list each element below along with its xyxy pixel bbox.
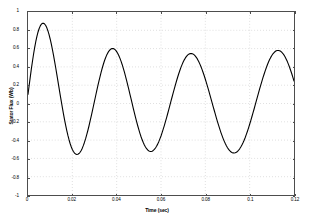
figure-canvas: -1-0.8-0.6-0.4-0.200.20.40.60.81 00.020.… <box>0 0 314 222</box>
y-tick-label: 0.8 <box>13 27 19 32</box>
x-tickmark <box>250 11 251 14</box>
y-tick-label: 1 <box>17 9 19 14</box>
y-tickmark <box>27 141 30 142</box>
y-tick-label: -0.6 <box>11 157 19 162</box>
x-tick-label: 0.12 <box>291 198 300 203</box>
y-tickmark <box>27 48 30 49</box>
x-axis-title: Time (sec) <box>0 207 314 213</box>
y-tickmark <box>293 122 296 123</box>
x-tickmark <box>116 11 117 14</box>
y-tickmark <box>27 178 30 179</box>
x-tickmark <box>27 194 28 197</box>
x-tick-label: 0.04 <box>112 198 121 203</box>
y-tickmark <box>27 159 30 160</box>
x-tickmark <box>72 11 73 14</box>
x-tickmark <box>250 194 251 197</box>
y-tickmark <box>293 159 296 160</box>
x-tickmark <box>27 11 28 14</box>
x-tickmark <box>161 194 162 197</box>
x-tick-label: 0.06 <box>157 198 166 203</box>
x-tick-label: 0.02 <box>67 198 76 203</box>
y-tickmark <box>293 141 296 142</box>
y-tick-label: -0.8 <box>11 175 19 180</box>
y-axis-title: Stator Flux (Wb) <box>8 66 14 146</box>
x-tickmark <box>116 194 117 197</box>
y-tick-label: 0.6 <box>13 46 19 51</box>
x-tickmark <box>72 194 73 197</box>
y-tick-label: -1 <box>15 194 19 199</box>
plot-area <box>27 11 295 196</box>
stator-flux-curve <box>28 12 294 195</box>
y-tick-label: 0 <box>17 101 19 106</box>
x-tick-label: 0.08 <box>201 198 210 203</box>
x-tickmark <box>206 194 207 197</box>
y-tickmark <box>27 122 30 123</box>
y-tickmark <box>27 30 30 31</box>
x-tickmark <box>161 11 162 14</box>
x-tickmark <box>295 194 296 197</box>
y-tickmark <box>293 85 296 86</box>
y-tickmark <box>27 104 30 105</box>
y-tickmark <box>293 30 296 31</box>
x-tick-label: 0 <box>26 198 28 203</box>
y-tickmark <box>27 196 30 197</box>
x-tickmark <box>206 11 207 14</box>
x-tickmark <box>295 11 296 14</box>
y-tickmark <box>293 196 296 197</box>
y-tickmark <box>293 67 296 68</box>
y-tickmark <box>27 67 30 68</box>
y-tickmark <box>293 48 296 49</box>
y-tickmark <box>27 85 30 86</box>
y-tickmark <box>293 104 296 105</box>
x-tick-label: 0.1 <box>247 198 253 203</box>
y-tickmark <box>293 178 296 179</box>
